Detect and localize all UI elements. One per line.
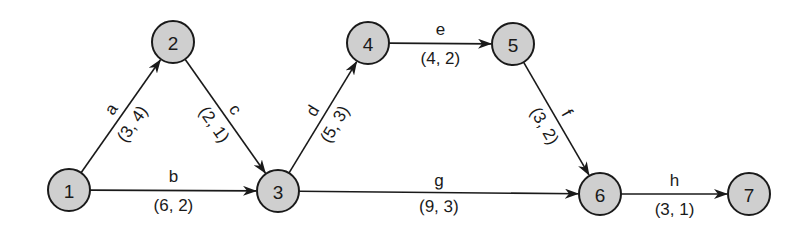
edge-name-label: d [302, 102, 323, 120]
edge-weight-label: (5, 3) [317, 102, 354, 146]
node-number-label: 7 [744, 185, 755, 206]
edge-h: h(3, 1) [621, 171, 727, 219]
edge-b: b(6, 2) [90, 167, 256, 215]
node-5: 5 [492, 23, 534, 65]
node-6: 6 [579, 173, 621, 215]
edge-name-label: g [434, 171, 444, 190]
node-3: 3 [257, 170, 299, 212]
node-1: 1 [48, 169, 90, 211]
edge-weight-label: (9, 3) [419, 197, 459, 216]
edge-e: e(4, 2) [389, 20, 491, 68]
node-number-label: 1 [64, 181, 75, 202]
edge-d: d(5, 3) [289, 62, 357, 173]
node-number-label: 2 [168, 33, 179, 54]
nodes-layer: 1234567 [48, 21, 770, 215]
node-2: 2 [152, 21, 194, 63]
edge-c: c(2, 1) [185, 59, 265, 173]
edge-name-label: a [101, 99, 122, 118]
edge-name-label: h [670, 171, 679, 190]
edge-weight-label: (3, 2) [526, 104, 562, 148]
edge-arrow [299, 191, 578, 194]
node-7: 7 [728, 173, 770, 215]
edge-name-label: e [436, 20, 445, 39]
edge-name-label: f [557, 106, 576, 120]
edge-arrow [389, 43, 491, 44]
edge-f: f(3, 2) [524, 62, 589, 175]
node-number-label: 5 [508, 35, 519, 56]
node-number-label: 6 [595, 185, 606, 206]
edge-g: g(9, 3) [299, 171, 578, 216]
network-diagram: a(3, 4)b(6, 2)c(2, 1)d(5, 3)e(4, 2)f(3, … [0, 0, 809, 242]
edge-arrow [90, 190, 256, 191]
node-number-label: 3 [273, 182, 284, 203]
edge-weight-label: (6, 2) [154, 196, 194, 215]
edge-name-label: b [169, 167, 178, 186]
edge-weight-label: (3, 1) [655, 200, 695, 219]
node-number-label: 4 [363, 34, 374, 55]
edge-a: a(3, 4) [81, 60, 160, 173]
edge-weight-label: (4, 2) [421, 49, 461, 68]
node-4: 4 [347, 22, 389, 64]
edge-name-label: c [225, 101, 246, 119]
